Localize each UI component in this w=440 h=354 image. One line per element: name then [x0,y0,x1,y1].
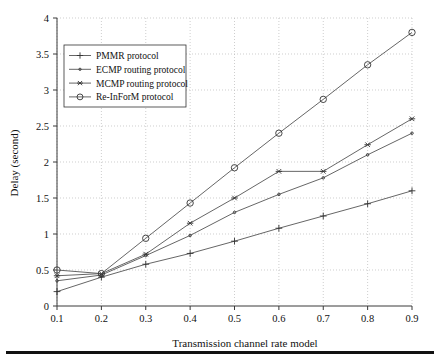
legend-label: PMMR protocol [96,51,159,61]
y-tick-label: 3 [44,85,49,96]
delay-vs-rate-chart: 0.10.20.30.40.50.60.70.80.900.511.522.53… [0,0,440,354]
x-tick-label: 0.2 [95,313,108,324]
data-point-marker-plus [142,261,149,268]
data-point-marker-plus [187,250,194,257]
x-tick-label: 0.1 [50,313,63,324]
legend-label: MCMP routing protocol [96,79,188,89]
data-point-marker-plus [364,200,371,207]
data-point-marker-asterisk [320,169,326,174]
data-point-marker-asterisk [364,142,370,147]
x-axis-title: Transmission channel rate model [172,337,317,349]
data-point-marker-plus [320,213,327,220]
x-tick-label: 0.8 [361,313,374,324]
data-point-marker-asterisk [276,169,282,174]
y-tick-label: 0.5 [36,265,49,276]
x-tick-label: 0.6 [272,313,285,324]
y-tick-label: 1 [44,229,49,240]
y-tick-label: 2.5 [36,121,49,132]
x-tick-label: 0.7 [317,313,330,324]
data-point-marker-plus [54,288,61,295]
x-tick-label: 0.3 [139,313,152,324]
data-point-marker-asterisk [231,196,237,201]
y-tick-label: 1.5 [36,193,49,204]
data-point-marker-plus [409,187,416,194]
y-axis-title: Delay (second) [8,129,21,196]
series-2 [54,116,415,278]
x-tick-label: 0.5 [228,313,241,324]
x-tick-label: 0.4 [184,313,198,324]
chart-legend: PMMR protocolECMP routing protocolMCMP r… [64,45,188,107]
x-tick-label: 0.9 [405,313,418,324]
legend-label: ECMP routing protocol [96,65,186,75]
y-tick-label: 2 [44,157,49,168]
y-tick-label: 4 [44,13,50,24]
data-point-marker-asterisk [187,221,193,226]
legend-label: Re-InForM protocol [96,92,174,102]
y-tick-label: 0 [44,301,49,312]
data-point-marker-plus [231,238,238,245]
y-tick-label: 3.5 [36,49,49,60]
series-0 [54,187,416,295]
data-point-marker-plus [275,225,282,232]
